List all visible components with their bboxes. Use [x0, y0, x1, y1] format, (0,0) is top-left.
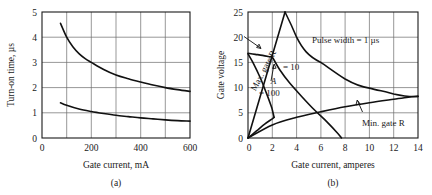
x-tick-10: 10	[365, 143, 375, 153]
y-tick-15: 15	[234, 58, 244, 68]
x-tick-0: 0	[247, 143, 252, 153]
x-tick-6: 6	[319, 143, 324, 153]
leader-max-gate-r	[244, 37, 261, 49]
y-tick-1: 1	[32, 108, 37, 118]
chart-b-x-ticks: 0 2 4 6 8 10 12 14	[247, 143, 423, 153]
chart-b-x-axis-title: Gate current, amperes	[291, 160, 375, 170]
y-tick-5: 5	[32, 8, 37, 18]
x-tick-12: 12	[389, 143, 399, 153]
annotation-ohm-100: = 100	[259, 88, 280, 98]
x-tick-14: 14	[413, 143, 423, 153]
panel-b: Max. gate R Pulse width = 1 µs Min. gate…	[216, 0, 432, 195]
y-tick-0: 0	[238, 134, 243, 144]
y-tick-25: 25	[234, 8, 244, 18]
curve-lower-turn-on-time	[61, 103, 191, 121]
y-tick-10: 10	[234, 83, 244, 93]
y-tick-4: 4	[32, 33, 37, 43]
y-tick-2: 2	[32, 83, 37, 93]
chart-a-y-ticks: 5 4 3 2 1 0	[32, 8, 37, 144]
chart-a-y-axis-title: Turn-on time, µs	[6, 43, 16, 107]
curve-upper-turn-on-time	[61, 23, 191, 91]
annotation-pulse-width: Pulse width = 1 µs	[312, 35, 380, 45]
annotation-ohm-10: = 10	[283, 62, 300, 72]
x-tick-8: 8	[343, 143, 348, 153]
curve-lower-left-boundary	[248, 117, 274, 138]
chart-a-x-axis-title: Gate current, mA	[83, 160, 149, 170]
annotation-min-gate-r: Min. gate R	[362, 118, 405, 128]
curve-pulse-width-1us	[285, 12, 418, 97]
annotation-point-a: A	[270, 76, 277, 86]
y-tick-5: 5	[238, 108, 243, 118]
y-tick-20: 20	[234, 33, 244, 43]
x-tick-0: 0	[40, 143, 45, 153]
chart-b-caption: (b)	[327, 178, 338, 189]
chart-b-y-axis-title: Gate voltage	[216, 51, 226, 99]
chart-b-y-ticks: 25 20 15 10 5 0	[234, 8, 244, 144]
y-tick-0: 0	[32, 134, 37, 144]
x-tick-400: 400	[134, 143, 149, 153]
chart-a-svg: 5 4 3 2 1 0 0 200 400 600 Gate current, …	[0, 0, 216, 195]
leader-min-gate-r	[356, 100, 363, 112]
y-tick-3: 3	[32, 58, 37, 68]
x-tick-4: 4	[294, 143, 299, 153]
x-tick-2: 2	[270, 143, 275, 153]
chart-a-x-ticks: 0 200 400 600	[40, 143, 198, 153]
x-tick-200: 200	[84, 143, 99, 153]
chart-b-svg: Max. gate R Pulse width = 1 µs Min. gate…	[216, 0, 432, 195]
panel-a: 5 4 3 2 1 0 0 200 400 600 Gate current, …	[0, 0, 216, 195]
figure-root: 5 4 3 2 1 0 0 200 400 600 Gate current, …	[0, 0, 432, 195]
chart-a-caption: (a)	[111, 178, 122, 189]
x-tick-600: 600	[183, 143, 198, 153]
